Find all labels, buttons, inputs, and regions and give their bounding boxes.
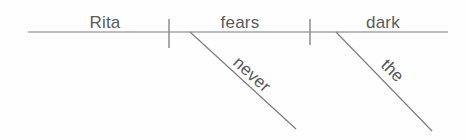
never-modifier-line — [190, 32, 296, 129]
word-subject-rita: Rita — [89, 13, 120, 32]
word-verb-fears: fears — [221, 13, 260, 32]
word-object-dark: dark — [366, 13, 400, 32]
the-modifier-line — [336, 32, 432, 131]
word-modifier-the: the — [377, 55, 408, 86]
sentence-diagram-svg: Rita fears dark never the — [0, 0, 467, 140]
sentence-diagram-canvas: Rita fears dark never the — [0, 0, 467, 140]
